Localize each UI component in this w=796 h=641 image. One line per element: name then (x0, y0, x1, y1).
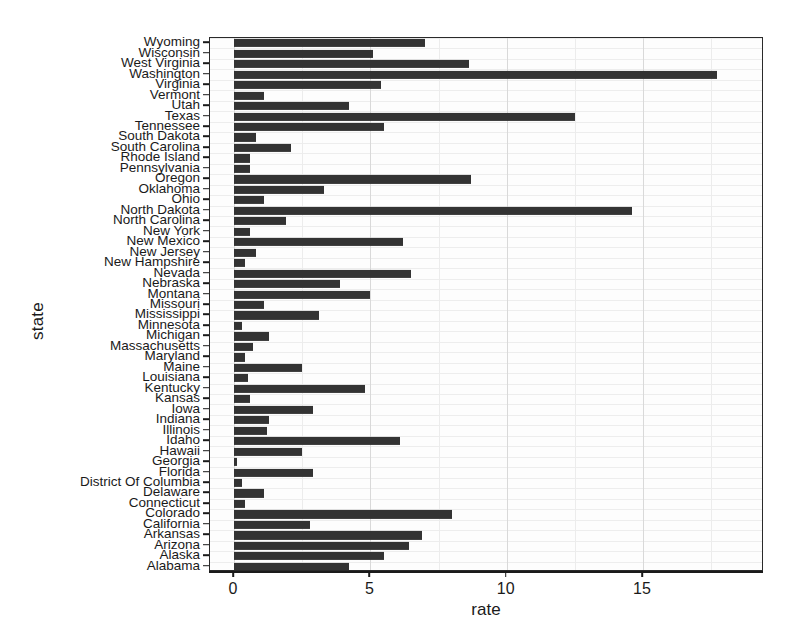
bar (234, 71, 717, 79)
y-tick-label: Alabama (60, 559, 200, 573)
bar (234, 144, 291, 152)
bar (234, 468, 313, 476)
bar (234, 322, 242, 330)
bar (234, 510, 452, 518)
bar (234, 531, 422, 539)
bar (234, 249, 256, 257)
bar (234, 133, 256, 141)
bar (234, 217, 286, 225)
gridline-horizontal (210, 226, 762, 227)
gridline-horizontal (210, 499, 762, 500)
gridline-horizontal (210, 425, 762, 426)
gridline-horizontal (210, 258, 762, 259)
y-axis-title-text: state (28, 302, 48, 340)
bar (234, 154, 250, 162)
bar (234, 448, 302, 456)
gridline-horizontal (210, 216, 762, 217)
x-tick-mark (641, 571, 643, 577)
bar (234, 395, 250, 403)
bar (234, 207, 632, 215)
bar-chart-figure: state WyomingWisconsinWest VirginiaWashi… (0, 0, 796, 641)
x-tick-mark (369, 571, 371, 577)
bar (234, 427, 267, 435)
gridline-horizontal (210, 132, 762, 133)
gridline-horizontal (210, 153, 762, 154)
bar (234, 353, 245, 361)
bar (234, 416, 269, 424)
gridline-horizontal (210, 90, 762, 91)
gridline-horizontal (210, 488, 762, 489)
x-tick-label: 15 (633, 580, 651, 598)
bar (234, 521, 310, 529)
gridline-horizontal (210, 321, 762, 322)
gridline-horizontal (210, 195, 762, 196)
bar (234, 542, 409, 550)
bar (234, 186, 324, 194)
bar (234, 39, 425, 47)
bar (234, 102, 349, 110)
gridline-horizontal (210, 394, 762, 395)
gridline-horizontal (210, 247, 762, 248)
gridline-horizontal (210, 342, 762, 343)
x-tick-mark (232, 571, 234, 577)
plot-panel (209, 37, 763, 571)
x-axis-line (209, 571, 763, 573)
bar (234, 81, 381, 89)
bar (234, 238, 403, 246)
gridline-major-15 (643, 38, 644, 570)
y-axis-tick-labels: WyomingWisconsinWest VirginiaWashingtonV… (60, 37, 200, 571)
bar (234, 196, 264, 204)
gridline-horizontal (210, 457, 762, 458)
bar (234, 311, 319, 319)
bar (234, 123, 384, 131)
x-axis-title: rate (209, 600, 763, 620)
bar (234, 165, 250, 173)
bar (234, 280, 340, 288)
gridline-horizontal (210, 300, 762, 301)
bar (234, 92, 264, 100)
bar (234, 500, 245, 508)
x-tick-label: 0 (229, 580, 238, 598)
bar (234, 364, 302, 372)
bar (234, 259, 245, 267)
bar (234, 270, 411, 278)
bar (234, 301, 264, 309)
gridline-horizontal (210, 352, 762, 353)
bar (234, 489, 264, 497)
gridline-horizontal (210, 164, 762, 165)
bar (234, 290, 370, 298)
bar (234, 50, 373, 58)
gridline-horizontal (210, 331, 762, 332)
y-axis-title: state (18, 0, 58, 641)
bar (234, 60, 469, 68)
bar (234, 374, 248, 382)
bar (234, 343, 253, 351)
bar (234, 458, 237, 466)
bar (234, 563, 349, 571)
bar (234, 112, 575, 120)
bar (234, 175, 471, 183)
bar (234, 479, 242, 487)
gridline-horizontal (210, 478, 762, 479)
gridline-minor (711, 38, 712, 570)
bar (234, 228, 250, 236)
x-axis-title-text: rate (471, 600, 500, 619)
x-tick-label: 10 (497, 580, 515, 598)
bar (234, 385, 365, 393)
bar (234, 437, 400, 445)
x-tick-mark (505, 571, 507, 577)
bar (234, 406, 313, 414)
gridline-minor (575, 38, 576, 570)
bar (234, 552, 384, 560)
bar (234, 332, 269, 340)
x-tick-label: 5 (365, 580, 374, 598)
gridline-horizontal (210, 415, 762, 416)
gridline-horizontal (210, 373, 762, 374)
gridline-horizontal (210, 143, 762, 144)
